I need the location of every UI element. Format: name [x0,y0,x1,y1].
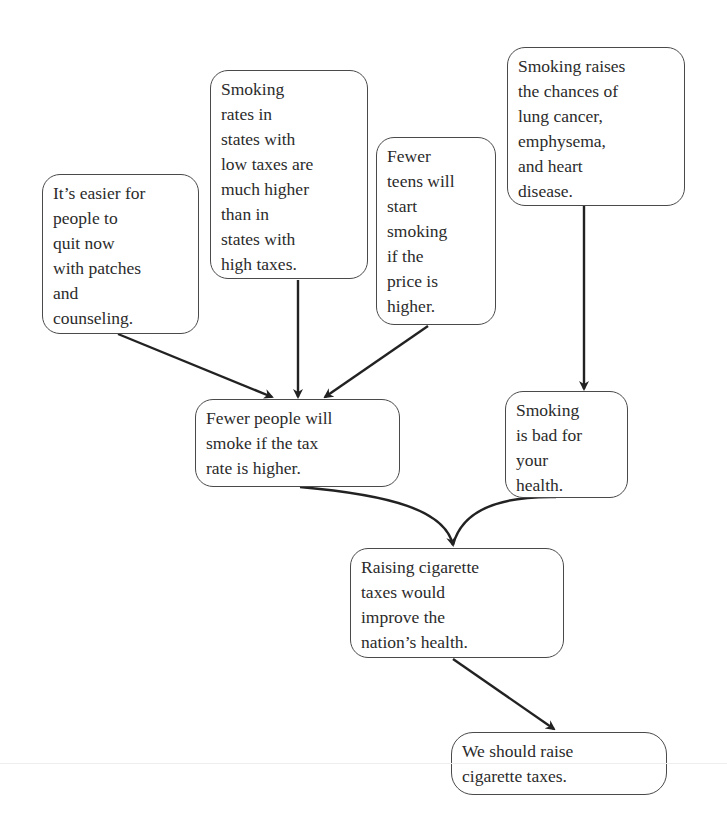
arrow-g-to-h [453,659,554,729]
claim-fewer-smokers: Fewer people will smoke if the tax rate … [195,399,400,487]
arrow-c-to-e [325,326,428,397]
scan-artifact-line [0,763,727,764]
claim-smoking-bad: Smoking is bad for your health. [505,391,628,498]
argument-diagram: It’s easier for people to quit now with … [0,0,727,838]
premise-fewer-teens: Fewer teens will start smoking if the pr… [376,137,496,325]
arrow-a-to-e [118,334,272,397]
claim-raise-taxes-health: Raising cigarette taxes would improve th… [350,548,564,658]
premise-state-smoking-rates: Smoking rates in states with low taxes a… [210,70,368,279]
premise-quit-easier: It’s easier for people to quit now with … [42,174,199,334]
premise-health-risks: Smoking raises the chances of lung cance… [507,47,685,206]
arrow-f-to-g [453,497,556,545]
arrow-e-to-g [300,487,453,545]
